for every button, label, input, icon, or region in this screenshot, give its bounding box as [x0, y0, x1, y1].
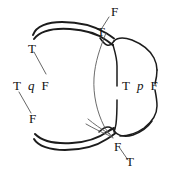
group-p-truth-left: T: [122, 78, 130, 94]
label-left-f: F: [29, 112, 36, 125]
center-thin-curve: [94, 33, 110, 134]
group-p: T p F: [122, 78, 158, 94]
right-edge-lower: [120, 90, 157, 136]
outer-brace-bottom-lower: [34, 134, 115, 151]
label-top-t: T: [97, 25, 105, 38]
label-left-t: T: [28, 42, 36, 55]
inner-brace-top-right-arm: [114, 38, 157, 70]
group-q: T q F: [13, 78, 49, 94]
group-q-truth-left: T: [13, 78, 21, 94]
group-p-truth-right: F: [150, 78, 157, 94]
center-thin-curve-secondary: [88, 119, 113, 137]
label-bottom-t: T: [126, 155, 134, 168]
group-p-variable: p: [137, 78, 144, 94]
label-bottom-f: F: [114, 140, 121, 153]
group-q-variable: q: [28, 78, 35, 94]
leader-group-to-left-f: [19, 92, 31, 113]
group-q-truth-right: F: [41, 78, 48, 94]
inner-spine-upper: [113, 45, 117, 86]
label-top-f: F: [111, 5, 118, 18]
figure-root: F T T F F T T q F T p F: [0, 0, 178, 178]
